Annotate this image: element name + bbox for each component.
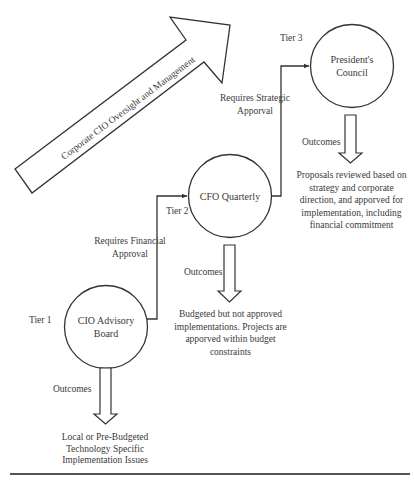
outcome-line: Budgeted but not approved bbox=[163, 308, 298, 321]
tier2-requirement-label: Requires Financial Approval bbox=[80, 235, 180, 260]
outcome-line: implementations. Projects are bbox=[163, 321, 298, 334]
outcome-line: implementation, including bbox=[289, 207, 414, 220]
tier3-requirement-label: Requires Strategic Apporval bbox=[205, 92, 305, 117]
requirement-line: Approval bbox=[80, 248, 180, 261]
tier3-outcomes-label: Outcomes bbox=[302, 136, 341, 149]
outcome-line: direction, and apporved for bbox=[289, 194, 414, 207]
outcome-line: financial commitment bbox=[289, 219, 414, 232]
requirement-line: Requires Strategic bbox=[205, 92, 305, 105]
cfo-quarterly-label: CFO Quarterly bbox=[200, 190, 260, 203]
tier2-label: Tier 2 bbox=[166, 205, 189, 218]
tier3-outcome-arrow bbox=[339, 115, 362, 163]
outcome-line: strategy and corporate bbox=[289, 182, 414, 195]
tier2-outcome-description: Budgeted but not approved implementation… bbox=[163, 308, 298, 358]
node-label-line: CIO Advisory bbox=[78, 314, 134, 327]
tier1-outcome-arrow bbox=[94, 368, 117, 424]
tier2-outcomes-label: Outcomes bbox=[184, 266, 223, 279]
bottom-divider bbox=[10, 473, 410, 475]
tier1-outcomes-label: Outcomes bbox=[53, 383, 92, 396]
tier1-outcome-description: Local or Pre-Budgeted Technology Specifi… bbox=[40, 432, 170, 467]
outcome-line: Implementation Issues bbox=[40, 455, 170, 467]
outcome-line: Proposals reviewed based on bbox=[289, 169, 414, 182]
node-label-line: Board bbox=[78, 327, 134, 340]
node-label-line: CFO Quarterly bbox=[200, 190, 260, 203]
requirement-line: Requires Financial bbox=[80, 235, 180, 248]
tier3-label: Tier 3 bbox=[280, 32, 303, 45]
outcome-line: Local or Pre-Budgeted bbox=[40, 432, 170, 444]
outcome-line: Technology Specific bbox=[40, 444, 170, 456]
node-label-line: President's bbox=[331, 53, 374, 66]
tier3-outcome-description: Proposals reviewed based on strategy and… bbox=[289, 169, 414, 232]
outcome-line: apporved within budget bbox=[163, 333, 298, 346]
outcome-line: constraints bbox=[163, 346, 298, 359]
cio-advisory-board-label: CIO Advisory Board bbox=[78, 314, 134, 340]
requirement-line: Apporval bbox=[205, 105, 305, 118]
presidents-council-label: President's Council bbox=[331, 53, 374, 79]
tier1-label: Tier 1 bbox=[29, 314, 52, 327]
node-label-line: Council bbox=[331, 66, 374, 79]
